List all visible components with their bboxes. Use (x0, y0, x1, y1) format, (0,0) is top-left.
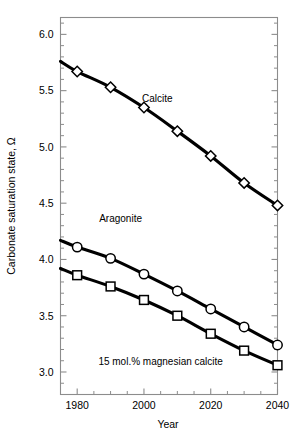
marker-circle (206, 304, 215, 313)
y-tick-label: 4.5 (39, 197, 54, 209)
marker-square (73, 271, 82, 280)
x-tick-label: 2000 (132, 399, 156, 411)
marker-square (173, 311, 182, 320)
y-tick-label: 3.5 (39, 310, 54, 322)
marker-circle (173, 286, 182, 295)
x-tick-label: 2020 (199, 399, 223, 411)
carbonate-saturation-line-chart: 3.03.54.04.55.05.56.0 1980200020202040 C… (0, 0, 300, 437)
marker-circle (72, 242, 81, 251)
annotation-0: Calcite (142, 93, 173, 104)
marker-square (273, 361, 282, 370)
marker-circle (139, 269, 148, 278)
marker-circle (239, 322, 248, 331)
marker-circle (273, 340, 282, 349)
y-axis-title: Carbonate saturation state, Ω (5, 137, 17, 275)
x-tick-label: 1980 (66, 399, 90, 411)
y-tick-label: 5.5 (39, 84, 54, 96)
y-tick-label: 5.0 (39, 141, 54, 153)
marker-square (240, 346, 249, 355)
x-axis-title: Year (157, 418, 179, 430)
y-tick-label: 3.0 (39, 366, 54, 378)
annotation-1: Aragonite (99, 213, 142, 224)
marker-square (140, 296, 149, 305)
x-tick-label: 2040 (266, 399, 290, 411)
y-tick-label: 6.0 (39, 28, 54, 40)
y-tick-label: 4.0 (39, 253, 54, 265)
marker-square (206, 329, 215, 338)
marker-square (106, 282, 115, 291)
annotation-2: 15 mol.% magnesian calcite (98, 356, 223, 367)
chart-figure: 3.03.54.04.55.05.56.0 1980200020202040 C… (0, 0, 300, 437)
marker-circle (106, 254, 115, 263)
